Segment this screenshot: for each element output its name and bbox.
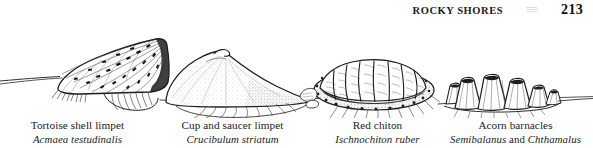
page-number: 213 bbox=[561, 2, 583, 18]
scan-smudge-icon bbox=[525, 6, 539, 14]
caption-acorn-barnacles: Acorn barnacles Semibalanus and Chthamal… bbox=[438, 119, 593, 145]
red-chiton bbox=[300, 60, 440, 118]
illustration-plate bbox=[0, 18, 593, 118]
common-name-label: Acorn barnacles bbox=[438, 119, 593, 132]
tortoise-shell-limpet bbox=[0, 39, 169, 111]
running-header: ROCKY SHORES 213 bbox=[413, 2, 583, 18]
conjunction-and: and bbox=[509, 133, 525, 145]
scientific-name-label: Acmaea testudinalis bbox=[0, 133, 155, 145]
cup-and-saucer-limpet bbox=[166, 50, 312, 118]
figure-captions: Tortoise shell limpet Acmaea testudinali… bbox=[0, 119, 593, 148]
scientific-name-label: Crucibulum striatum bbox=[150, 133, 315, 145]
scientific-name-label: Ischnochiton ruber bbox=[310, 133, 445, 145]
scientific-name-label: Semibalanus and Chthamalus bbox=[438, 133, 593, 145]
acorn-barnacles bbox=[444, 74, 593, 118]
page-title: ROCKY SHORES bbox=[413, 5, 504, 16]
caption-cup-and-saucer-limpet: Cup and saucer limpet Crucibulum striatu… bbox=[150, 119, 315, 145]
caption-tortoise-shell-limpet: Tortoise shell limpet Acmaea testudinali… bbox=[0, 119, 155, 145]
common-name-label: Red chiton bbox=[310, 119, 445, 132]
genus-semibalanus: Semibalanus bbox=[450, 133, 506, 145]
common-name-label: Tortoise shell limpet bbox=[0, 119, 155, 132]
common-name-label: Cup and saucer limpet bbox=[150, 119, 315, 132]
genus-chthamalus: Chthamalus bbox=[528, 133, 581, 145]
caption-red-chiton: Red chiton Ischnochiton ruber bbox=[310, 119, 445, 145]
book-page: ROCKY SHORES 213 bbox=[0, 0, 593, 148]
